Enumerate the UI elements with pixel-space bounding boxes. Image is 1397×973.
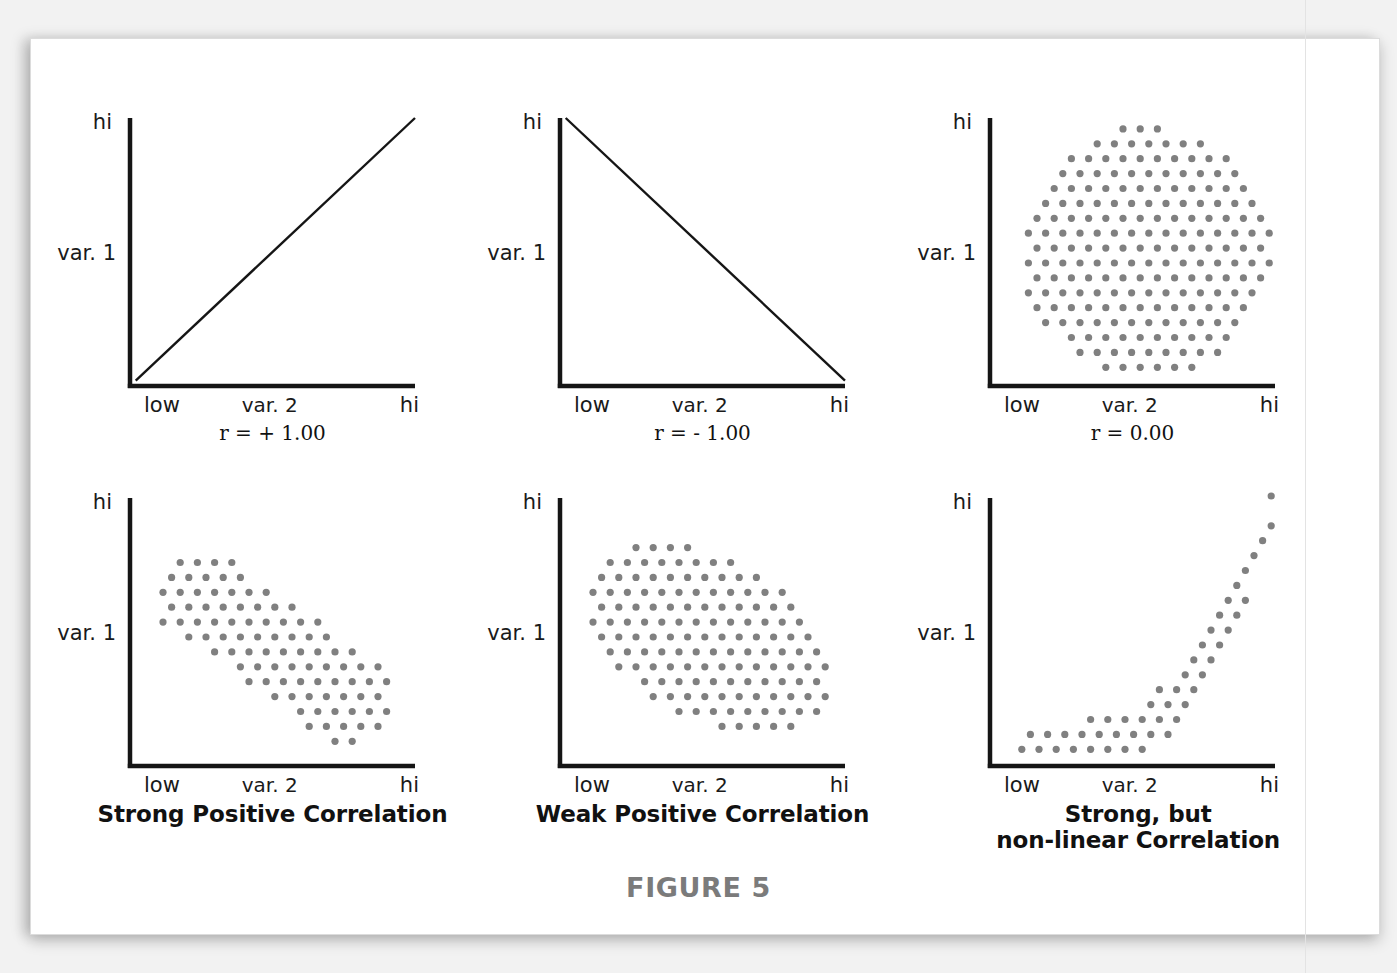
scatter-dot <box>1119 185 1126 192</box>
scatter-dot <box>1257 274 1264 281</box>
scatter-dot <box>263 648 270 655</box>
scatter-dot <box>684 544 691 551</box>
scatter-dot <box>710 589 717 596</box>
scatter-dot <box>1042 319 1049 326</box>
scatter-dot <box>1214 170 1221 177</box>
scatter-dot <box>254 663 261 670</box>
scatter-dot <box>779 678 786 685</box>
scatter-dot <box>1051 245 1058 252</box>
scatter-dot <box>288 633 295 640</box>
scatter-dot <box>1042 200 1049 207</box>
scatter-dot <box>701 693 708 700</box>
scatter-dot <box>1102 215 1109 222</box>
x-axis-name-label: var. 2 <box>1102 773 1158 797</box>
scatter-dot <box>641 648 648 655</box>
scatter-dot <box>736 574 743 581</box>
scatter-dot <box>744 589 751 596</box>
scatter-dot <box>1042 289 1049 296</box>
scatter-dot <box>1205 155 1212 162</box>
x-axis-low-label: low <box>144 773 180 797</box>
scatter-dot <box>1173 686 1180 693</box>
scatter-dot <box>607 619 614 626</box>
scatter-dot <box>1044 731 1051 738</box>
scatter-dot <box>168 604 175 611</box>
scatter-dot <box>667 693 674 700</box>
scatter-dot <box>693 708 700 715</box>
scatter-dot <box>1259 537 1266 544</box>
scatter-dot <box>331 738 338 745</box>
y-axis-hi-label: hi <box>93 110 112 134</box>
scatter-dot <box>1145 200 1152 207</box>
axes <box>558 498 845 768</box>
scatter-dot <box>1025 289 1032 296</box>
scatter-dot <box>1225 627 1232 634</box>
scatter-dot <box>1242 597 1249 604</box>
scatter-dot <box>1197 289 1204 296</box>
data-layer <box>159 559 390 745</box>
scatter-dot <box>1240 215 1247 222</box>
scatter-dot <box>1102 274 1109 281</box>
axes <box>988 498 1275 768</box>
scatter-dot <box>624 559 631 566</box>
scatter-dot <box>237 604 244 611</box>
scatter-dot <box>667 574 674 581</box>
scatter-dot <box>1053 746 1060 753</box>
scatter-dot <box>1162 170 1169 177</box>
scatter-dot <box>1051 304 1058 311</box>
scatter-dot <box>220 574 227 581</box>
scatter-dot <box>1257 245 1264 252</box>
scatter-dot <box>1042 230 1049 237</box>
scatter-dot <box>1197 170 1204 177</box>
scatter-dot <box>1085 304 1092 311</box>
scatter-dot <box>650 633 657 640</box>
scatter-dot <box>1119 274 1126 281</box>
scatter-dot <box>314 678 321 685</box>
y-axis-name-label: var. 1 <box>57 621 116 645</box>
scatter-dot <box>297 648 304 655</box>
scatter-dot <box>220 633 227 640</box>
x-axis-hi-label: hi <box>830 393 849 417</box>
scatter-dot <box>1111 230 1118 237</box>
scatter-dot <box>796 648 803 655</box>
perfect-positive-correlation-plot: hivar. 1lowvar. 2hir = + 1.00 <box>60 98 490 498</box>
scatter-dot <box>1190 686 1197 693</box>
scatter-dot <box>228 619 235 626</box>
scatter-dot <box>1162 230 1169 237</box>
scatter-dot <box>228 589 235 596</box>
y-axis-name-label: var. 1 <box>917 241 976 265</box>
scatter-dot <box>1207 627 1214 634</box>
scatter-dot <box>1214 319 1221 326</box>
scatter-dot <box>1033 274 1040 281</box>
scatter-dot <box>211 589 218 596</box>
scatter-dot <box>1248 230 1255 237</box>
panel-r-zero: hivar. 1lowvar. 2hir = 0.00 <box>920 98 1350 498</box>
x-axis-name-label: var. 2 <box>242 393 298 417</box>
x-axis-hi-label: hi <box>1260 393 1279 417</box>
scatter-dot <box>297 619 304 626</box>
scatter-dot <box>1051 215 1058 222</box>
scatter-dot <box>693 648 700 655</box>
scatter-dot <box>1104 716 1111 723</box>
scatter-dot <box>727 589 734 596</box>
scatter-dot <box>1059 230 1066 237</box>
scatter-dot <box>710 619 717 626</box>
scatter-dot <box>1214 289 1221 296</box>
panel-caption: Weak Positive Correlation <box>536 801 870 827</box>
scatter-dot <box>1068 304 1075 311</box>
scatter-dot <box>1094 259 1101 266</box>
scatter-dot <box>1223 185 1230 192</box>
scatter-dot <box>1240 245 1247 252</box>
scatter-dot <box>1268 522 1275 529</box>
scatter-dot <box>1197 259 1204 266</box>
scatter-dot <box>159 589 166 596</box>
scatter-dot <box>736 604 743 611</box>
panel-caption-line-1: Strong, but <box>1065 801 1212 827</box>
scatter-dot <box>1205 215 1212 222</box>
scatter-dot <box>736 663 743 670</box>
scatter-dot <box>1094 230 1101 237</box>
scatter-dot <box>598 633 605 640</box>
scatter-dot <box>220 604 227 611</box>
scatter-dot <box>822 663 829 670</box>
scatter-dot <box>607 559 614 566</box>
scatter-dot <box>650 574 657 581</box>
